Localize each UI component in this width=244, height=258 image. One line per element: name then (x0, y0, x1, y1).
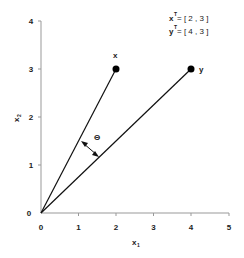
svg-text:1: 1 (137, 242, 140, 248)
y-tick-1: 1 (29, 161, 34, 170)
y-transpose-value: = [ 4 , 3 ] (177, 27, 208, 36)
y-tick-3: 3 (29, 65, 34, 74)
angle-theta-label: Θ (94, 133, 100, 142)
axes (38, 21, 229, 216)
vector-y-line (41, 69, 191, 213)
y-tick-4: 4 (29, 17, 34, 26)
x-tick-4: 4 (189, 223, 194, 232)
x-tick-labels: 0 1 2 3 4 5 (39, 223, 232, 232)
x-axis-title: x 1 (132, 238, 140, 248)
vector-definitions: x T = [ 2 , 3 ] y T = [ 4 , 3 ] (169, 11, 208, 36)
y-tick-labels: 0 1 2 3 4 (27, 17, 34, 218)
point-y-label: y (199, 65, 204, 74)
x-tick-5: 5 (227, 223, 232, 232)
point-x-label: x (113, 51, 118, 60)
y-axis-title: x 2 (12, 114, 22, 122)
x-tick-1: 1 (76, 223, 81, 232)
vector-x-line (41, 69, 116, 213)
point-y-marker (188, 66, 195, 73)
vector-angle-diagram: 0 1 2 3 4 0 1 2 3 4 5 x 1 x 2 x y Θ x T … (0, 0, 244, 258)
angle-double-arrow-icon (81, 141, 99, 157)
y-tick-2: 2 (29, 113, 34, 122)
y-tick-0: 0 (27, 209, 32, 218)
point-x-marker (113, 66, 120, 73)
svg-text:2: 2 (16, 114, 22, 117)
x-tick-0: 0 (39, 223, 44, 232)
x-tick-2: 2 (114, 223, 119, 232)
x-transpose-value: = [ 2 , 3 ] (177, 14, 208, 23)
x-tick-3: 3 (151, 223, 156, 232)
